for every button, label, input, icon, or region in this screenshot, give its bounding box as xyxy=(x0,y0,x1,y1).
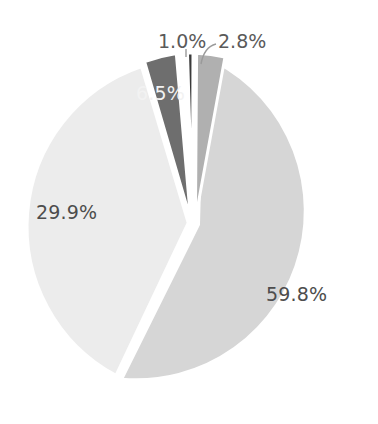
pie-label-29-9: 29.9% xyxy=(36,203,97,222)
pie-label-2-8: 2.8% xyxy=(218,32,266,51)
pie-label-6-5: 6.5% xyxy=(136,84,185,103)
pie-label-1-0: 1.0% xyxy=(158,32,206,51)
pie-label-59-8: 59.8% xyxy=(266,285,327,304)
pie-chart: 59.8% 29.9% 6.5% 1.0% 2.8% xyxy=(0,0,378,424)
